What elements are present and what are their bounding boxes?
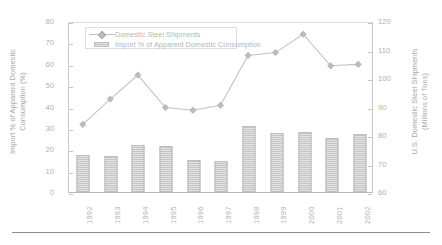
x-label-1997: 1997 [224, 206, 233, 224]
legend-item-imports: Import % of Apparent Domestic Consumptio… [89, 40, 233, 49]
left-tick-70: 70 [38, 38, 54, 47]
x-label-1992: 1992 [85, 206, 94, 224]
left-tick-30: 30 [38, 124, 54, 133]
x-label-2002: 2002 [363, 206, 372, 224]
legend-label-shipments: Domestic Steel Shipments [115, 30, 201, 39]
left-tick-80: 80 [38, 17, 54, 26]
x-label-1996: 1996 [196, 206, 205, 224]
chart-figure: Import % of Apparent Domestic Consumptio… [0, 0, 442, 245]
legend-label-imports: Import % of Apparent Domestic Consumptio… [115, 40, 261, 49]
marker-1997 [217, 102, 223, 108]
right-axis-ticks: 60708090100110120 [378, 18, 400, 194]
x-label-2000: 2000 [307, 206, 316, 224]
x-label-1993: 1993 [113, 206, 122, 224]
x-label-1999: 1999 [279, 206, 288, 224]
legend-item-shipments: Domestic Steel Shipments [89, 30, 233, 39]
left-tick-40: 40 [38, 103, 54, 112]
right-tick-70: 70 [378, 160, 398, 169]
x-label-1994: 1994 [141, 206, 150, 224]
right-tick-60: 60 [378, 188, 398, 197]
left-axis-title: Import % of Apparent Domestic Consumptio… [8, 13, 27, 191]
x-label-2001: 2001 [335, 206, 344, 224]
x-label-1995: 1995 [169, 206, 178, 224]
chart-legend: Domestic Steel Shipments Import % of App… [85, 27, 237, 49]
right-tick-120: 120 [378, 17, 398, 26]
left-tick-60: 60 [38, 60, 54, 69]
left-axis-ticks: 01020304050607080 [36, 18, 54, 194]
right-tick-100: 100 [378, 74, 398, 83]
x-label-1998: 1998 [252, 206, 261, 224]
marker-1996 [190, 107, 196, 113]
marker-1998 [245, 52, 251, 58]
left-tick-0: 0 [38, 188, 54, 197]
x-axis-labels: 1992199319941995199619971998199920002001… [68, 195, 373, 235]
footer-divider [12, 232, 430, 233]
marker-1999 [273, 50, 279, 56]
left-tick-50: 50 [38, 81, 54, 90]
right-tick-80: 80 [378, 131, 398, 140]
line-marker-icon [89, 30, 115, 39]
left-tick-20: 20 [38, 145, 54, 154]
left-tick-10: 10 [38, 167, 54, 176]
right-axis-title: U.S. Domestic Steel Shipments (Millions … [410, 13, 429, 191]
right-tick-110: 110 [378, 46, 398, 55]
marker-2002 [355, 61, 361, 67]
right-tick-90: 90 [378, 103, 398, 112]
bar-swatch-icon [89, 40, 115, 49]
